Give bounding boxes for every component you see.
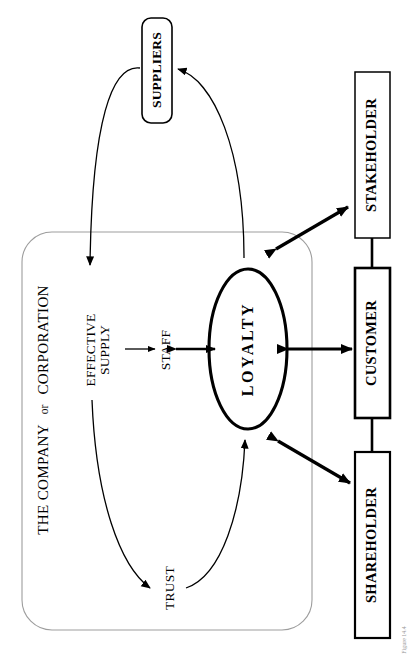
effective-supply-label: EFFECTIVE SUPPLY [84, 313, 112, 386]
effective-supply-line1: EFFECTIVE [84, 313, 98, 386]
company-label-line2: CORPORATION [35, 285, 51, 394]
effective-supply-line2: SUPPLY [98, 313, 112, 386]
shareholder-label: SHAREHOLDER [364, 487, 379, 603]
edge-loyalty-shareholder [278, 441, 350, 483]
edge-loyalty-to-suppliers [178, 69, 244, 258]
stakeholder-label: STAKEHOLDER [364, 98, 379, 212]
customer-label: CUSTOMER [364, 300, 379, 386]
suppliers-label: SUPPLIERS [150, 32, 164, 108]
edge-suppliers-to-effective-supply [90, 68, 140, 265]
edge-loyalty-stakeholder [276, 207, 348, 249]
diagram-graphics [0, 0, 416, 664]
edge-trust-to-loyalty [186, 440, 245, 588]
trust-label: TRUST [163, 566, 177, 610]
company-label-line1: THE COMPANY [35, 424, 51, 534]
diagram-canvas: SUPPLIERS STAKEHOLDER CUSTOMER SHAREHOLD… [0, 0, 416, 664]
edge-effective-supply-to-trust [92, 400, 150, 588]
company-boundary-label: THE COMPANY or CORPORATION [36, 285, 52, 535]
company-label-or: or [38, 399, 50, 421]
staff-label: STAFF [159, 330, 173, 370]
loyalty-label: LOYALTY [240, 302, 257, 396]
figure-caption: Figure 14.4 [401, 626, 407, 654]
